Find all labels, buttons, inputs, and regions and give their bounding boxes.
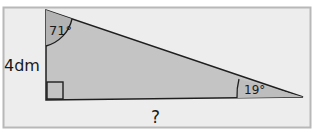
bottom-side-label: ? <box>151 107 160 127</box>
left-side-label: 4dm <box>4 56 40 75</box>
bottom-right-angle-label: 19° <box>244 83 265 97</box>
right-triangle-diagram: 71° 19° 4dm ? <box>0 0 316 132</box>
top-angle-label: 71° <box>49 23 72 38</box>
